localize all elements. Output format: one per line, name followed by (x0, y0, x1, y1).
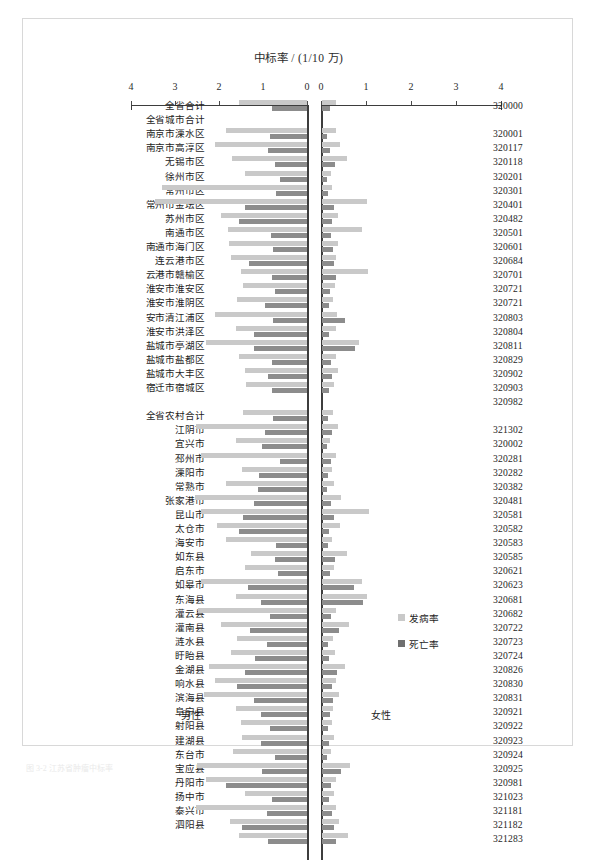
bar-female-incidence (322, 185, 332, 190)
bar-male-mortality (249, 261, 307, 266)
row-label-region: 宜兴市 (33, 438, 205, 449)
bar-female-incidence (322, 368, 338, 373)
table-row: 320982 (23, 395, 574, 409)
table-row: 无锡市区320118 (23, 155, 574, 169)
bar-female-mortality (322, 106, 330, 111)
bar-male-mortality (272, 797, 307, 802)
legend-item-incidence: 发病率 (398, 611, 439, 637)
row-label-region: 阜宁县 (33, 706, 205, 717)
table-row: 涟水县320723 (23, 635, 574, 649)
right-axis-ticklabel: 3 (446, 81, 466, 92)
row-label-code: 320981 (493, 777, 523, 788)
bar-female-mortality (322, 303, 329, 308)
table-row: 启东市320621 (23, 564, 574, 578)
row-label-code: 320621 (493, 565, 523, 576)
row-label-code: 320903 (493, 382, 523, 393)
figure-frame: 中标率 / (1/10 万) 4321001234全省合计320000全省城市合… (22, 18, 573, 746)
bar-female-incidence (322, 241, 338, 246)
row-label-region: 昆山市 (33, 509, 205, 520)
row-label-code: 320623 (493, 579, 523, 590)
table-row: 灌云县320682 (23, 607, 574, 621)
bar-female-incidence (322, 833, 348, 838)
bar-female-mortality (322, 839, 336, 844)
table-row: 南通市海门区320601 (23, 240, 574, 254)
bar-male-mortality (226, 783, 307, 788)
bar-female-mortality (322, 487, 327, 492)
panel-label-female: 女性 (371, 707, 391, 722)
bar-female-incidence (322, 495, 341, 500)
bar-female-incidence (322, 156, 347, 161)
figure-caption: 图 3-2 江苏省肿瘤中标率 (26, 762, 446, 773)
bar-male-incidence (239, 354, 307, 359)
table-row: 如东县320585 (23, 550, 574, 564)
bar-male-mortality (254, 346, 307, 351)
row-label-code: 320721 (493, 283, 523, 294)
bar-male-mortality (259, 473, 307, 478)
row-label-region: 安市清江浦区 (33, 312, 205, 323)
row-label-code: 320281 (493, 453, 523, 464)
bar-male-mortality (237, 684, 307, 689)
row-label-code: 320921 (493, 706, 523, 717)
table-row: 连云港市区320684 (23, 254, 574, 268)
table-row: 东台市320924 (23, 748, 574, 762)
bar-female-incidence (322, 382, 334, 387)
row-label-code: 320282 (493, 467, 523, 478)
row-label-region: 东台市 (33, 749, 205, 760)
bar-female-mortality (322, 741, 329, 746)
row-label-code: 321283 (493, 833, 523, 844)
bar-male-mortality (265, 303, 307, 308)
row-label-region: 苏州市区 (33, 213, 205, 224)
bar-female-mortality (322, 797, 329, 802)
legend-swatch-incidence-icon (398, 614, 405, 621)
row-label-code: 320804 (493, 326, 523, 337)
bar-female-mortality (322, 543, 328, 548)
row-label-region: 南通市区 (33, 227, 205, 238)
bar-female-mortality (322, 501, 331, 506)
row-label-region: 全省城市合计 (33, 114, 205, 125)
bar-female-incidence (322, 692, 339, 697)
row-label-code: 320401 (493, 199, 523, 210)
bar-male-mortality (273, 318, 307, 323)
bar-female-incidence (322, 100, 336, 105)
row-label-code: 320601 (493, 241, 523, 252)
bar-female-incidence (322, 678, 336, 683)
bar-female-incidence (322, 523, 340, 528)
bar-female-incidence (322, 199, 367, 204)
row-label-code: 320000 (493, 100, 523, 111)
bar-male-incidence (236, 438, 307, 443)
bar-female-mortality (322, 656, 329, 661)
table-row: 淮安市淮安区320721 (23, 282, 574, 296)
row-label-region: 灌南县 (33, 622, 205, 633)
bar-female-mortality (322, 332, 329, 337)
table-row: 盱眙县320724 (23, 649, 574, 663)
bar-male-incidence (245, 171, 307, 176)
legend-label-mortality: 死亡率 (409, 639, 439, 650)
row-label-region: 江阴市 (33, 424, 205, 435)
bar-male-mortality (270, 614, 307, 619)
table-row: 丹阳市320981 (23, 776, 574, 790)
bar-male-incidence (209, 664, 307, 669)
bar-male-incidence (237, 297, 307, 302)
row-label-region: 启东市 (33, 565, 205, 576)
bar-female-mortality (322, 712, 330, 717)
bar-male-mortality (261, 741, 307, 746)
bar-male-incidence (243, 283, 307, 288)
row-label-region: 全省合计 (33, 100, 205, 111)
bar-female-mortality (322, 571, 330, 576)
legend-swatch-mortality-icon (398, 640, 405, 647)
bar-female-mortality (322, 219, 332, 224)
bar-female-incidence (322, 410, 333, 415)
bar-female-incidence (322, 255, 336, 260)
bar-female-mortality (322, 247, 333, 252)
table-row: 盐城市亭湖区320811 (23, 339, 574, 353)
bar-female-incidence (322, 438, 330, 443)
bar-female-incidence (322, 777, 336, 782)
table-row: 泗阳县321182 (23, 818, 574, 832)
bar-female-incidence (322, 142, 340, 147)
bar-male-mortality (255, 656, 307, 661)
row-label-region: 溧阳市 (33, 467, 205, 478)
row-label-region: 宿迁市宿城区 (33, 382, 205, 393)
bar-male-mortality (243, 515, 307, 520)
bar-female-mortality (322, 177, 327, 182)
bar-male-mortality (280, 177, 307, 182)
